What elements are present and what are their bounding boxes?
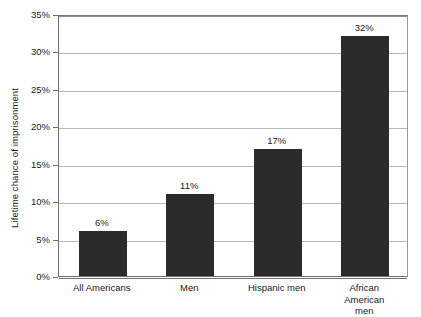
y-tick-mark-20 bbox=[53, 127, 58, 128]
y-tick-label-20: 20% bbox=[10, 123, 50, 133]
y-tick-label-5: 5% bbox=[10, 235, 50, 245]
bar[interactable] bbox=[166, 194, 214, 276]
y-tick-label-10: 10% bbox=[10, 197, 50, 207]
bar-value-label: 32% bbox=[355, 23, 374, 33]
y-tick-mark-25 bbox=[53, 90, 58, 91]
x-tick-label: Men bbox=[180, 282, 198, 294]
gridline-35 bbox=[59, 16, 407, 17]
plot-area bbox=[58, 15, 408, 277]
y-tick-label-35: 35% bbox=[10, 10, 50, 20]
y-tick-mark-35 bbox=[53, 15, 58, 16]
bar[interactable] bbox=[79, 231, 127, 276]
gridline-0 bbox=[59, 278, 407, 279]
x-tick-label: All Americans bbox=[73, 282, 131, 294]
y-tick-mark-0 bbox=[53, 277, 58, 278]
y-tick-mark-10 bbox=[53, 202, 58, 203]
y-tick-label-15: 15% bbox=[10, 160, 50, 170]
x-tick-label: African American men bbox=[336, 282, 393, 317]
x-tick-label: Hispanic men bbox=[248, 282, 306, 294]
bar-value-label: 6% bbox=[95, 218, 109, 228]
bar-value-label: 11% bbox=[180, 181, 198, 191]
y-tick-mark-15 bbox=[53, 165, 58, 166]
bar-value-label: 17% bbox=[267, 136, 286, 146]
y-tick-mark-5 bbox=[53, 240, 58, 241]
y-tick-label-0: 0% bbox=[10, 272, 50, 282]
y-axis-title: Lifetime chance of imprisonment bbox=[9, 88, 20, 228]
y-tick-mark-30 bbox=[53, 52, 58, 53]
bar[interactable] bbox=[341, 36, 389, 276]
bar-chart: Lifetime chance of imprisonment 0%5%10%1… bbox=[0, 0, 421, 317]
bar[interactable] bbox=[254, 149, 302, 276]
y-tick-label-30: 30% bbox=[10, 48, 50, 58]
y-tick-label-25: 25% bbox=[10, 85, 50, 95]
